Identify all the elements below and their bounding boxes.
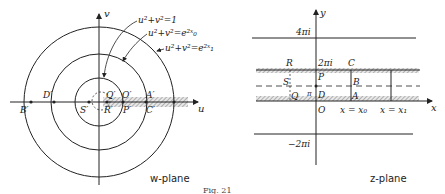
label-2pi: 2πi [317, 58, 333, 68]
label-P: P [317, 72, 325, 82]
label-S: S [283, 77, 289, 87]
figure-caption: Fig. 21 [203, 186, 232, 194]
leader-x1 [157, 49, 164, 51]
curve-label-x1: u²+v²=e²ˣ₁ [165, 43, 214, 53]
x-axis-label: x [431, 102, 437, 113]
w-plane-diagram: u v B′ D′ S′ Q′ R′ O′ P′ A′ C′ u²+v²=1 u… [10, 8, 214, 185]
label-Q: Q [291, 91, 299, 101]
label-x0: x = x₀ [340, 105, 367, 115]
label-P-prime: P′ [122, 105, 131, 115]
label-4pi: 4πi [295, 27, 311, 37]
curve-label-x0: u²+v²=e²ˣ₀ [148, 28, 197, 38]
label-D-prime: D′ [42, 90, 52, 100]
label-R: R [285, 58, 293, 68]
curve-label-unit: u²+v²=1 [138, 15, 177, 25]
label-pi: π [306, 90, 312, 98]
leader-unit [104, 21, 137, 77]
label-D: D [317, 90, 325, 100]
label-C: C [348, 58, 355, 68]
label-minus-2pi: −2πi [288, 139, 310, 149]
z-plane-title: z-plane [370, 173, 407, 184]
z-plane-diagram: x y 4πi 2πi π −2πi R C P S B Q D A O x =… [252, 7, 437, 184]
label-O: O [318, 105, 326, 115]
w-plane-title: w-plane [150, 173, 190, 184]
label-Q-prime: Q′ [106, 90, 115, 100]
conformal-map-figure: u v B′ D′ S′ Q′ R′ O′ P′ A′ C′ u²+v²=1 u… [0, 0, 445, 194]
label-C-prime: C′ [146, 105, 155, 115]
label-B-prime: B′ [19, 105, 29, 115]
label-A-prime: A′ [145, 90, 155, 100]
label-x1: x = x₁ [380, 105, 407, 115]
label-B: B [352, 77, 360, 87]
v-axis-label: v [104, 8, 110, 19]
label-S-prime: S′ [80, 105, 88, 115]
y-axis-label: y [319, 7, 326, 18]
z-hatch-lower [256, 96, 419, 101]
point-D [315, 85, 318, 88]
leader-x0 [123, 34, 147, 61]
u-axis-label: u [198, 103, 204, 114]
label-R-prime: R′ [103, 105, 113, 115]
label-O-prime: O′ [122, 90, 131, 100]
label-A: A [351, 91, 359, 101]
